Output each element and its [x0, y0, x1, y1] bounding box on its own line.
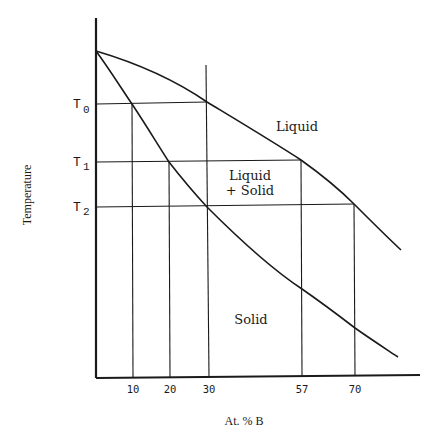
- x-tick-57: 57: [296, 383, 309, 395]
- composition-line-10: [132, 104, 133, 377]
- composition-line-57: [301, 160, 302, 376]
- x-tick-70: 70: [349, 383, 362, 395]
- liquidus-curve: [96, 51, 401, 250]
- tie-line-t2: [96, 204, 354, 207]
- x-tick-20: 20: [164, 383, 177, 395]
- x-tick-30: 30: [203, 383, 216, 395]
- svg-text:T: T: [73, 97, 81, 112]
- svg-text:T: T: [73, 200, 81, 215]
- svg-text:T: T: [73, 155, 81, 170]
- label-t1: T 1: [73, 155, 90, 173]
- tie-line-t1: [96, 160, 301, 162]
- x-axis-label: At. % B: [225, 414, 264, 428]
- x-tick-10: 10: [127, 383, 140, 395]
- tie-line-t0: [96, 102, 207, 104]
- region-label-solid: Solid: [234, 312, 267, 327]
- svg-text:0: 0: [83, 104, 90, 116]
- label-t0: T 0: [73, 97, 90, 116]
- svg-text:2: 2: [83, 206, 90, 218]
- region-label-two-phase-line2: + Solid: [226, 183, 274, 198]
- composition-line-20: [169, 162, 170, 377]
- composition-line-70: [354, 204, 355, 376]
- svg-text:1: 1: [83, 161, 90, 173]
- y-axis-label: Temperature: [20, 165, 34, 225]
- label-t2: T 2: [73, 200, 90, 218]
- composition-line-30: [206, 65, 209, 377]
- region-label-two-phase-line1: Liquid: [229, 168, 271, 183]
- region-label-liquid: Liquid: [276, 119, 318, 134]
- x-axis: [96, 375, 420, 378]
- phase-diagram: T 0 T 1 T 2 Temperature 10 20 30 57 70 A…: [0, 0, 440, 439]
